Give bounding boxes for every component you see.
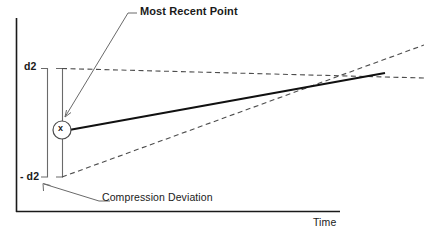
compression-deviation-leader-line bbox=[44, 184, 99, 201]
compression-deviation-diagram: Most Recent Point Compression Deviation … bbox=[0, 0, 424, 236]
lower-deviation-tick-label: - d2 bbox=[20, 171, 39, 182]
lower-deviation-bound-dashed bbox=[62, 45, 424, 177]
compression-deviation-label: Compression Deviation bbox=[102, 192, 213, 203]
most-recent-point-symbol: x bbox=[58, 124, 63, 133]
x-axis-label-time: Time bbox=[313, 217, 336, 228]
recorded-trend-solid-line bbox=[69, 73, 385, 130]
most-recent-point-leader-arrow-line bbox=[65, 13, 128, 117]
upper-deviation-tick-label: d2 bbox=[24, 61, 36, 72]
compression-deviation-arrowhead-icon bbox=[43, 184, 51, 192]
deviation-bracket-outer bbox=[41, 69, 48, 178]
most-recent-point-label: Most Recent Point bbox=[140, 6, 238, 17]
most-recent-point-arrowhead-icon bbox=[65, 110, 71, 117]
